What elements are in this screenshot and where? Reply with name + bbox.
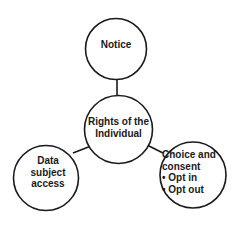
- node-label-choice-and-consent: Choice and consent • Opt in • Opt out: [162, 149, 228, 195]
- node-text-line: subject: [18, 167, 78, 179]
- bullet-opt-in: • Opt in: [162, 172, 228, 184]
- edge-rights-data-subject-access: [73, 146, 91, 153]
- node-text-line: Choice and: [162, 149, 228, 161]
- node-label-data-subject-access: Data subject access: [18, 155, 78, 190]
- node-text-line: access: [18, 178, 78, 190]
- bullet-opt-out: • Opt out: [162, 184, 228, 196]
- node-label-rights-of-the-individual: Rights of the Individual: [84, 116, 153, 139]
- edge-rights-choice-and-consent: [147, 145, 163, 153]
- node-text-line: Individual: [84, 128, 153, 140]
- node-label-notice: Notice: [86, 39, 146, 51]
- node-text-line: Notice: [86, 39, 146, 51]
- node-text-line: consent: [162, 161, 228, 173]
- node-text-line: Data: [18, 155, 78, 167]
- node-text-line: Rights of the: [84, 116, 153, 128]
